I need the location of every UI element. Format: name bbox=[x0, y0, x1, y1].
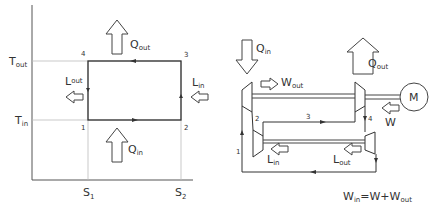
point-2: 2 bbox=[184, 124, 188, 132]
flow-arrow-5-icon bbox=[374, 158, 378, 163]
q-out-label: Qout bbox=[130, 38, 150, 52]
flow-arrow-4-icon bbox=[363, 116, 367, 121]
arrow-1-2-icon bbox=[132, 118, 138, 122]
diagram-canvas: 4 3 1 2 Tout Tin S1 S2 Qout Qin Lout Lin… bbox=[0, 0, 442, 215]
q-in-label: Qin bbox=[256, 42, 271, 56]
point-1: 1 bbox=[81, 124, 85, 132]
q-in-arrow-icon bbox=[106, 128, 128, 162]
arrow-3-4-icon bbox=[130, 59, 136, 63]
cycle-rectangle bbox=[88, 61, 181, 120]
l-in-arrow-icon bbox=[271, 143, 288, 155]
flow-arrow-3-icon bbox=[320, 120, 326, 124]
q-in-arrow-icon bbox=[236, 40, 258, 74]
machine-diagram: Qin Qout Wout M W bbox=[236, 38, 428, 204]
s2-label: S2 bbox=[175, 186, 186, 201]
arrow-2-3-icon bbox=[179, 94, 183, 98]
t-out-label: Tout bbox=[8, 55, 27, 69]
ts-diagram: 4 3 1 2 Tout Tin S1 S2 Qout Qin Lout Lin bbox=[8, 5, 208, 201]
l-in-arrow-icon bbox=[191, 91, 208, 103]
flow-arrow-6-icon bbox=[310, 170, 316, 174]
w-arrow-icon bbox=[382, 102, 399, 114]
equation: Win=W+Wout bbox=[343, 190, 412, 204]
s1-label: S1 bbox=[83, 186, 94, 201]
point-4: 4 bbox=[81, 50, 86, 58]
w-out-label: Wout bbox=[281, 76, 304, 90]
l-out-arrow-icon bbox=[66, 91, 83, 103]
t-in-label: Tin bbox=[14, 114, 28, 128]
point-3: 3 bbox=[184, 51, 188, 59]
flow-line-2 bbox=[252, 112, 253, 130]
lower-left-machine bbox=[253, 130, 263, 157]
upper-left-machine bbox=[242, 82, 252, 112]
flow-arrow-1-icon bbox=[240, 130, 244, 135]
point-1: 1 bbox=[236, 148, 240, 156]
l-in-label: Lin bbox=[192, 76, 205, 90]
q-out-arrow-icon bbox=[106, 20, 128, 54]
l-out-arrow-icon bbox=[344, 143, 361, 155]
q-out-label: Qout bbox=[368, 57, 388, 71]
w-label: W bbox=[385, 116, 396, 129]
l-out-label: Lout bbox=[333, 153, 351, 167]
point-4: 4 bbox=[368, 115, 373, 123]
l-out-label: Lout bbox=[65, 75, 83, 88]
lower-right-machine bbox=[365, 132, 375, 154]
l-in-label: Lin bbox=[267, 153, 280, 167]
upper-right-machine bbox=[355, 82, 365, 112]
motor-label: M bbox=[409, 91, 419, 104]
point-2: 2 bbox=[255, 115, 259, 123]
point-3: 3 bbox=[306, 113, 310, 121]
q-in-label: Qin bbox=[128, 143, 143, 157]
w-out-arrow-icon bbox=[261, 78, 278, 90]
arrow-4-1-icon bbox=[86, 88, 90, 92]
